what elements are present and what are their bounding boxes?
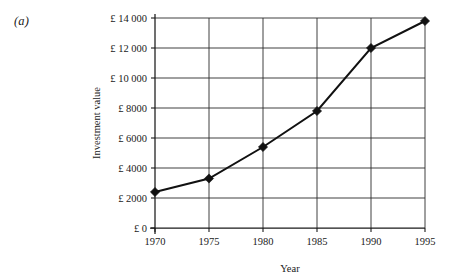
- y-tick-label: £ 0: [134, 223, 147, 234]
- y-tick-label: £ 8000: [118, 103, 147, 114]
- data-series-line: [155, 21, 425, 192]
- y-tick-label: £ 2000: [118, 193, 147, 204]
- y-tick-label: £ 6000: [118, 133, 147, 144]
- data-point-markers: [150, 16, 429, 196]
- x-tick-label: 1985: [307, 236, 328, 247]
- x-tick-label: 1980: [253, 236, 274, 247]
- figure-panel: (a) £ 0£ 2000£ 4000£ 6000£ 8000£ 10 000£…: [0, 0, 460, 278]
- x-tick-label: 1990: [361, 236, 382, 247]
- vertical-grid-lines: [209, 18, 425, 228]
- line-chart: £ 0£ 2000£ 4000£ 6000£ 8000£ 10 000£ 12 …: [0, 0, 460, 278]
- y-tick-label: £ 12 000: [110, 43, 147, 54]
- grid-lines: [155, 18, 425, 198]
- x-tick-label: 1995: [415, 236, 436, 247]
- y-tick-label: £ 4000: [118, 163, 147, 174]
- y-tick-label: £ 10 000: [110, 73, 147, 84]
- x-tick-labels: 197019751980198519901995: [145, 236, 436, 247]
- y-axis-title: Investment value: [91, 87, 102, 159]
- data-point-marker: [204, 174, 213, 183]
- x-tick-label: 1975: [199, 236, 220, 247]
- data-point-marker: [150, 187, 159, 196]
- y-tick-label: £ 14 000: [110, 13, 147, 24]
- x-axis-title: Year: [280, 263, 300, 274]
- y-tick-labels: £ 0£ 2000£ 4000£ 6000£ 8000£ 10 000£ 12 …: [110, 13, 147, 234]
- x-tick-label: 1970: [145, 236, 166, 247]
